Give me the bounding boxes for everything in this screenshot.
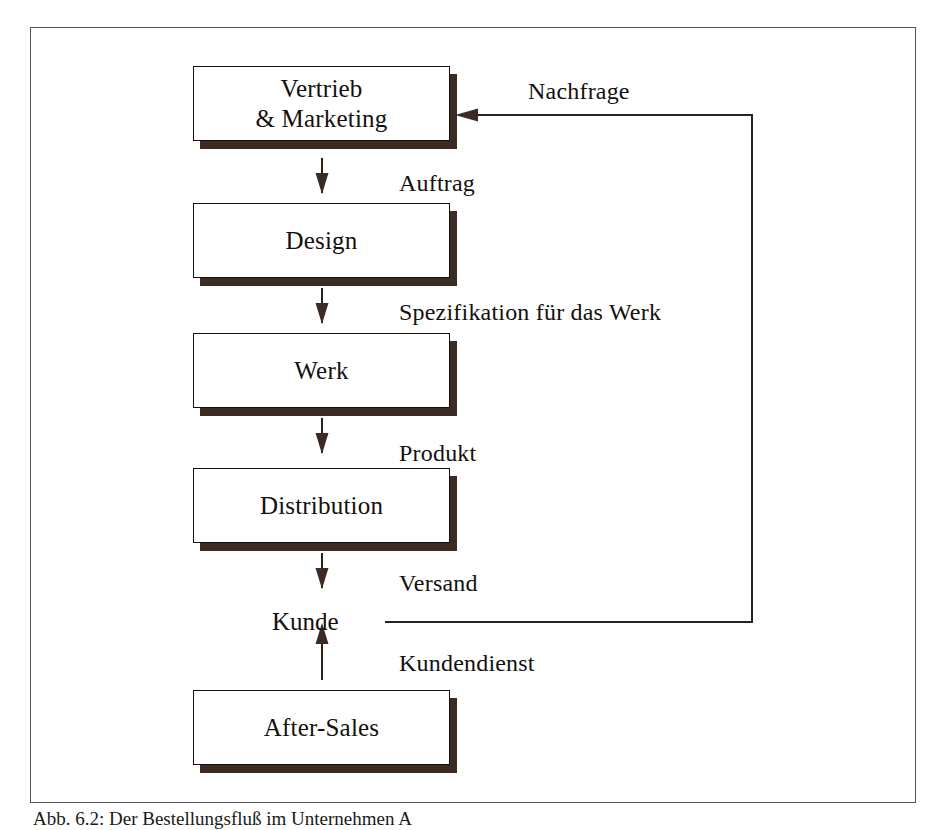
node-face: Design <box>193 203 450 278</box>
node-face: Vertrieb & Marketing <box>193 66 450 141</box>
edge-label-kundendienst: Kundendienst <box>399 650 535 677</box>
edge-label-nachfrage: Nachfrage <box>528 78 630 105</box>
edge-label-versand: Versand <box>399 570 478 597</box>
node-distribution[interactable]: Distribution <box>193 468 450 543</box>
node-face: Distribution <box>193 468 450 543</box>
figure-caption: Abb. 6.2: Der Bestellungsfluß im Unterne… <box>33 808 412 830</box>
node-vertrieb-marketing[interactable]: Vertrieb & Marketing <box>193 66 450 141</box>
node-label-kunde: Kunde <box>272 608 339 635</box>
node-face: Werk <box>193 333 450 408</box>
node-label-design: Design <box>285 226 357 256</box>
node-label-after-sales: After-Sales <box>264 713 380 743</box>
node-label-werk: Werk <box>294 356 348 386</box>
figure-frame <box>30 27 916 803</box>
node-after-sales[interactable]: After-Sales <box>193 690 450 765</box>
node-face: After-Sales <box>193 690 450 765</box>
node-label-distribution: Distribution <box>260 491 383 521</box>
node-werk[interactable]: Werk <box>193 333 450 408</box>
node-label-vertrieb: Vertrieb & Marketing <box>255 74 387 133</box>
node-kunde[interactable]: Kunde <box>272 608 339 636</box>
edge-label-spezifikation: Spezifikation für das Werk <box>399 299 661 326</box>
edge-label-auftrag: Auftrag <box>399 170 475 197</box>
edge-label-produkt: Produkt <box>399 440 476 467</box>
node-design[interactable]: Design <box>193 203 450 278</box>
